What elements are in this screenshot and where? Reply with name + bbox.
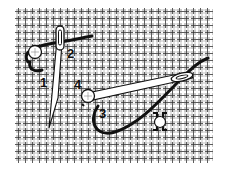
bead-stitch-diagram: 1 2 3 4 xyxy=(0,0,227,174)
step-label-4: 4 xyxy=(74,78,81,91)
canvas-illustration xyxy=(0,0,227,174)
step-label-2: 2 xyxy=(67,47,74,60)
step-label-1: 1 xyxy=(40,76,47,89)
step-label-3: 3 xyxy=(99,107,106,120)
